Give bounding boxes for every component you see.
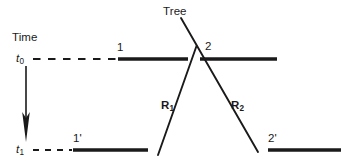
r1-letter: R [161, 99, 169, 111]
reaction-label-r1: R1 [161, 100, 174, 112]
r1-subscript: 1 [170, 104, 175, 113]
state-label-2-prime: 2' [268, 133, 277, 145]
t1-subscript: 1 [20, 148, 25, 157]
time-axis-label: Time [12, 32, 38, 44]
diagonal-line-r2 [181, 18, 258, 152]
diagram-vector-layer [0, 0, 351, 162]
diagram-canvas: Time t0 t1 Tree 1 2 1' 2' R1 R2 [0, 0, 351, 162]
time-level-t1-label: t1 [16, 144, 24, 156]
state-label-2: 2 [205, 41, 211, 53]
t1-letter: t [16, 143, 19, 155]
state-label-1-prime: 1' [73, 133, 82, 145]
r2-letter: R [231, 99, 239, 111]
t0-letter: t [16, 52, 19, 64]
state-label-1: 1 [117, 42, 123, 54]
t0-subscript: 0 [20, 57, 25, 66]
tree-label: Tree [163, 6, 187, 18]
time-level-t0-label: t0 [16, 53, 24, 65]
r2-subscript: 2 [240, 104, 245, 113]
reaction-label-r2: R2 [231, 100, 244, 112]
